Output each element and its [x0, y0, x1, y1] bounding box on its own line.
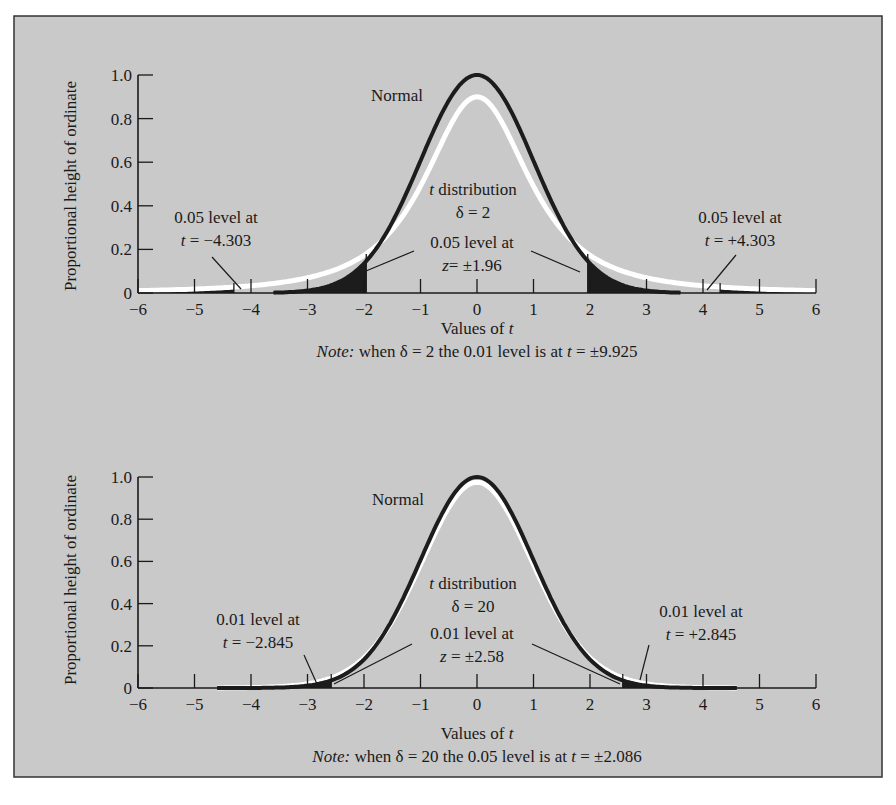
x-tick-label: 2	[586, 695, 595, 714]
normal-label: Normal	[371, 86, 423, 105]
left-level-label-2: t = −4.303	[181, 231, 252, 250]
t-delta-label: δ = 20	[451, 597, 494, 616]
t-distribution-label: t distribution	[429, 574, 517, 593]
x-axis-title: Values of t	[441, 319, 515, 338]
center-level-label-1: 0.05 level at	[430, 233, 514, 252]
y-tick-label: 0.4	[111, 595, 133, 614]
x-axis-title: Values of t	[441, 724, 515, 743]
x-tick-label: 2	[586, 300, 595, 319]
y-axis-title: Proportional height of ordinate	[61, 475, 80, 685]
y-tick-label: 0	[124, 679, 133, 698]
x-tick-label: 6	[812, 300, 821, 319]
x-tick-label: 4	[699, 695, 708, 714]
y-tick-label: 0.8	[111, 110, 132, 129]
x-tick-label: 5	[755, 695, 764, 714]
right-level-label-2: t = +2.845	[666, 625, 737, 644]
right-level-label-2: t = +4.303	[705, 231, 776, 250]
y-tick-label: 0	[124, 284, 133, 303]
x-tick-label: 1	[529, 300, 538, 319]
y-tick-label: 0.2	[111, 240, 132, 259]
y-tick-label: 1.0	[111, 66, 132, 85]
t-distribution-label: t distribution	[429, 180, 517, 199]
figure: Proportional height of ordinate −6−5−4−3…	[0, 0, 896, 805]
x-tick-label: 3	[642, 695, 651, 714]
x-tick-label: −5	[185, 300, 203, 319]
x-tick-label: −1	[411, 300, 429, 319]
x-tick-label: −2	[355, 695, 373, 714]
y-tick-label: 0.8	[111, 510, 132, 529]
x-tick-label: −2	[355, 300, 373, 319]
t-distribution-label-rest: distribution	[434, 180, 517, 199]
x-tick-label: 3	[642, 300, 651, 319]
left-level-label-2: t = −2.845	[223, 633, 294, 652]
y-tick-label: 0.2	[111, 637, 132, 656]
right-level-label-1: 0.01 level at	[659, 602, 743, 621]
left-level-label-1: 0.05 level at	[174, 208, 258, 227]
y-tick-label: 0.6	[111, 153, 132, 172]
x-tick-label: −4	[242, 300, 261, 319]
chart-note: Note: when δ = 20 the 0.05 level is at t…	[311, 747, 641, 766]
normal-label: Normal	[372, 490, 424, 509]
x-tick-label: −5	[185, 695, 203, 714]
x-tick-label: 5	[755, 300, 764, 319]
x-tick-label: 4	[699, 300, 708, 319]
y-tick-label: 0.4	[111, 197, 133, 216]
x-tick-label: 0	[473, 300, 482, 319]
x-tick-label: 1	[529, 695, 538, 714]
t-distribution-label-rest: distribution	[434, 574, 517, 593]
x-tick-label: −3	[298, 695, 316, 714]
y-tick-label: 0.6	[111, 552, 132, 571]
x-tick-label: 0	[473, 695, 482, 714]
x-tick-label: −3	[298, 300, 316, 319]
x-tick-label: −1	[411, 695, 429, 714]
x-tick-label: −4	[242, 695, 261, 714]
right-level-label-1: 0.05 level at	[698, 208, 782, 227]
y-tick-label: 1.0	[111, 468, 132, 487]
t-delta-label: δ = 2	[456, 203, 491, 222]
center-level-label-2: z = ±2.58	[439, 647, 504, 666]
center-level-label-1: 0.01 level at	[430, 624, 514, 643]
left-level-label-1: 0.01 level at	[216, 610, 300, 629]
center-level-label-2: z= ±1.96	[441, 256, 502, 275]
chart-note: Note: when δ = 2 the 0.01 level is at t …	[316, 342, 638, 361]
x-tick-label: 6	[812, 695, 821, 714]
y-axis-title: Proportional height of ordinate	[61, 81, 80, 291]
